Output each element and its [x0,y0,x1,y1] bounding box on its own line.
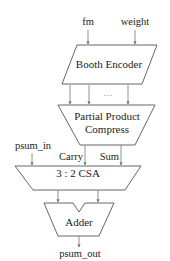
booth-multiplier-dataflow-diagram: fm weight Booth Encoder … Partial Produc… [0,0,170,261]
adder-label: Adder [65,216,93,228]
fm-input-label: fm [82,16,94,27]
weight-input-label: weight [121,16,150,27]
partial-product-compress-block: Partial Product Compress [58,105,155,145]
ppc-label-line2: Compress [85,123,129,135]
csa-block: 3 : 2 CSA [15,166,141,190]
carry-label: Carry [59,151,84,162]
csa-label: 3 : 2 CSA [56,167,100,179]
sum-label: Sum [100,151,119,162]
psum-out-label: psum_out [59,248,101,259]
ppc-label-line1: Partial Product [74,110,140,122]
booth-encoder-label: Booth Encoder [76,58,143,70]
booth-encoder-block: Booth Encoder [62,45,157,84]
psum-in-label: psum_in [15,140,52,151]
adder-block: Adder [44,203,114,236]
partial-product-ellipsis: … [104,88,113,98]
